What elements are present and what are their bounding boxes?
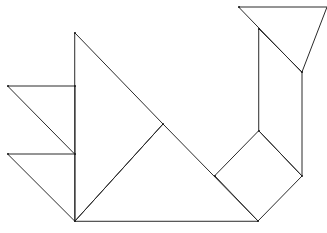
- large-triangle-base: [75, 124, 258, 221]
- vertex-dot: [7, 85, 9, 87]
- medium-triangle-head: [239, 7, 327, 72]
- vertex-dot: [238, 6, 240, 8]
- parallelogram-neck: [259, 29, 302, 176]
- vertex-dot: [301, 175, 303, 177]
- vertex-dot: [7, 153, 9, 155]
- vertex-dot: [214, 175, 216, 177]
- small-triangle-tail-lower: [8, 154, 75, 221]
- vertex-dot: [74, 85, 76, 87]
- small-triangle-tail-upper: [8, 86, 75, 154]
- vertex-dot: [74, 153, 76, 155]
- vertex-dot: [74, 220, 76, 222]
- tangram-diagram: [0, 0, 327, 233]
- square: [215, 131, 302, 221]
- vertex-dot: [301, 71, 303, 73]
- vertex-dot: [258, 28, 260, 30]
- vertex-dot: [258, 130, 260, 132]
- vertex-dot: [162, 123, 164, 125]
- tangram-canvas: [0, 0, 327, 233]
- vertex-dot: [74, 32, 76, 34]
- large-triangle-body: [75, 33, 163, 221]
- vertex-dot: [257, 220, 259, 222]
